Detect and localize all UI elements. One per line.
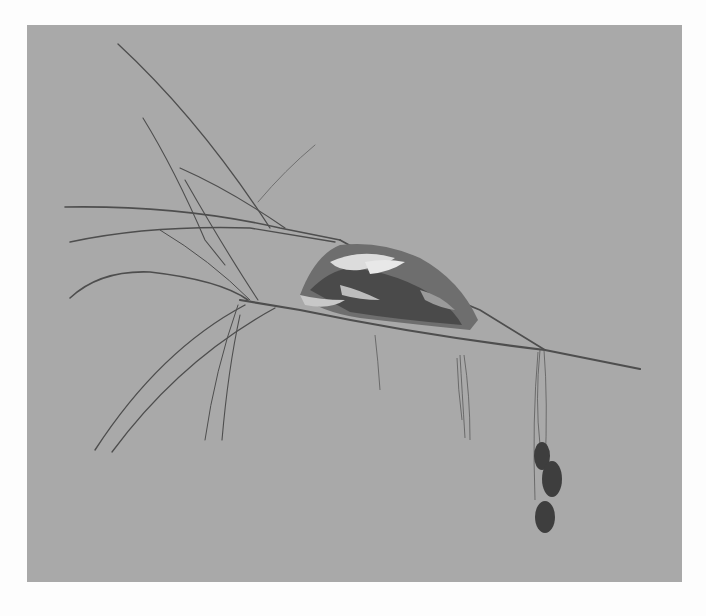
- hanging-fibers: [375, 335, 546, 500]
- hanging-leaves: [534, 442, 562, 533]
- nest-branch-illustration: [0, 0, 706, 616]
- nest: [300, 244, 478, 330]
